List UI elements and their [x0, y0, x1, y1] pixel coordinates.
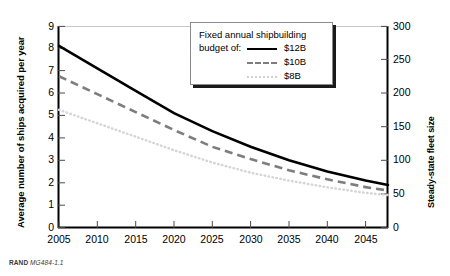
- left-axis-tick-label: 4: [30, 131, 54, 143]
- right-axis-tick-label: 300: [393, 20, 421, 32]
- right-axis-tick-label: 100: [393, 153, 421, 165]
- legend-swatch-solid-line-icon: [247, 48, 277, 50]
- right-axis-tick-label: 50: [393, 187, 421, 199]
- right-axis-tick-label: 200: [393, 86, 421, 98]
- left-axis-tick-label: 2: [30, 176, 54, 188]
- x-axis-tick-label: 2015: [116, 233, 156, 245]
- right-axis-tick-label: 0: [393, 221, 421, 233]
- left-axis-tick-label: 3: [30, 153, 54, 165]
- x-axis-tick-label: 2010: [77, 233, 117, 245]
- figure-chart-ship-acquisition: Average number of ships acquired per yea…: [0, 0, 450, 276]
- left-axis-tick-label: 0: [30, 221, 54, 233]
- legend-label-10b: $10B: [284, 56, 306, 67]
- source-note-prefix: RAND: [9, 259, 28, 266]
- x-axis-tick-label: 2020: [154, 233, 194, 245]
- x-axis-tick-label: 2040: [307, 233, 347, 245]
- right-axis-tick-label: 250: [393, 53, 421, 65]
- legend-label-8b: $8B: [284, 70, 301, 81]
- x-axis-tick-label: 2025: [192, 233, 232, 245]
- figure-source-note: RAND MG484-1.1: [9, 259, 64, 266]
- left-axis-tick-label: 6: [30, 86, 54, 98]
- left-axis-tick-label: 1: [30, 198, 54, 210]
- legend-swatch-dashed-line-icon: [247, 62, 277, 64]
- source-note-id: MG484-1.1: [30, 259, 63, 266]
- x-axis-tick-label: 2045: [346, 233, 386, 245]
- x-axis-tick-label: 2030: [231, 233, 271, 245]
- left-axis-tick-label: 7: [30, 64, 54, 76]
- x-axis-tick-label: 2005: [39, 233, 79, 245]
- right-axis-tick-label: 150: [393, 120, 421, 132]
- x-axis-tick-label: 2035: [269, 233, 309, 245]
- left-axis-tick-label: 9: [30, 20, 54, 32]
- left-axis-tick-label: 8: [30, 41, 54, 53]
- legend-label-12b: $12B: [284, 42, 306, 53]
- left-axis-tick-label: 5: [30, 108, 54, 120]
- chart-legend: Fixed annual shipbuilding budget of: $12…: [190, 22, 333, 85]
- legend-swatch-dotted-line-icon: [247, 76, 277, 78]
